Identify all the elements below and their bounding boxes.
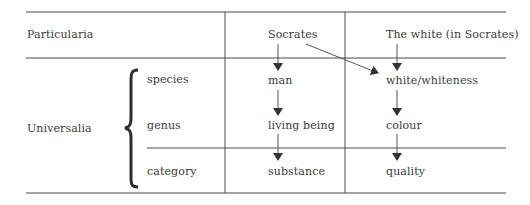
cell-white-whiteness: white/whiteness — [386, 75, 478, 86]
cell-living-being: living being — [268, 120, 335, 131]
level-category: category — [147, 166, 197, 177]
header-the-white: The white (in Socrates) — [386, 29, 519, 40]
universalia-label: Universalia — [27, 123, 92, 134]
header-socrates: Socrates — [268, 29, 318, 40]
level-genus: genus — [147, 120, 181, 131]
level-species: species — [147, 74, 189, 85]
cell-quality: quality — [386, 166, 425, 177]
brace-icon — [125, 70, 138, 187]
cell-colour: colour — [386, 120, 422, 131]
cell-man: man — [268, 75, 292, 86]
particularia-label: Particularia — [27, 29, 94, 40]
cell-substance: substance — [268, 166, 325, 177]
